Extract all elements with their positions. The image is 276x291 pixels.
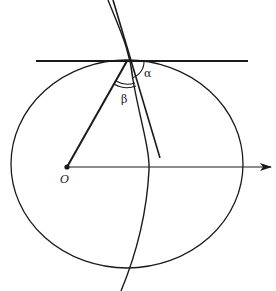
- ellipse: [11, 60, 243, 268]
- origin-point: [64, 164, 69, 169]
- beta-label: β: [121, 93, 127, 106]
- straight-line: [113, 0, 160, 158]
- ellipse-orbit-diagram: O α β: [0, 0, 276, 291]
- radius-line: [67, 61, 127, 167]
- trajectory-curve: [108, 0, 149, 291]
- alpha-label: α: [144, 67, 152, 80]
- beta-angle-arc-inner: [116, 81, 135, 84]
- origin-label: O: [60, 173, 69, 186]
